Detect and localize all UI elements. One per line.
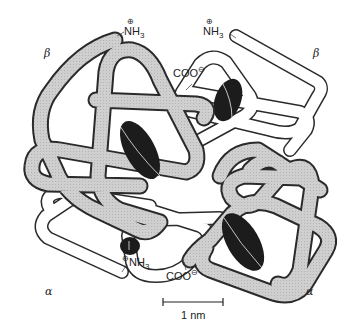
heme-lower-middle — [120, 237, 140, 255]
subunit-label-beta-left: β — [44, 48, 50, 59]
subunit-label-alpha-right: α — [306, 286, 313, 297]
coo-terminus-bottom: COO⊖ — [166, 271, 198, 282]
scale-bar-label: 1 nm — [181, 309, 205, 321]
open-chain-beta-right — [180, 36, 321, 150]
positive-charge-icon: ⊕ — [127, 18, 134, 26]
hemoglobin-diagram: β β α α ⊕ NH3 ⊕ NH3 COO⊖ ⊕NH3 COO⊖ 1 nm — [0, 0, 347, 330]
coo-terminus-upper: COO⊖ — [173, 68, 205, 79]
nh3-terminus-top-left: ⊕ NH3 — [124, 26, 144, 38]
negative-charge-icon: ⊖ — [191, 268, 198, 277]
positive-charge-icon: ⊕ — [206, 18, 213, 26]
subunit-label-alpha-left: α — [45, 286, 52, 297]
subunit-label-beta-right: β — [313, 48, 319, 59]
positive-charge-icon: ⊕ — [122, 254, 129, 263]
nh3-terminus-top-right: ⊕ NH3 — [203, 26, 223, 38]
nh3-terminus-bottom: ⊕NH3 — [122, 257, 149, 269]
negative-charge-icon: ⊖ — [198, 65, 205, 74]
scale-bar — [163, 298, 223, 306]
